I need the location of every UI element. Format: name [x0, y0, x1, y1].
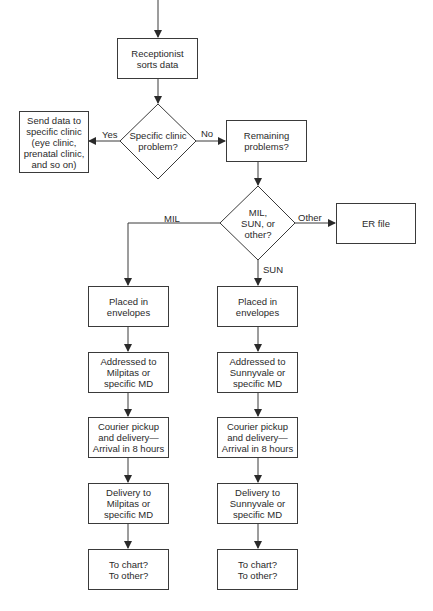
sun-final-box: To chart? To other? [217, 549, 298, 590]
mil-delivery-box: Delivery to Milpitas or specific MD [88, 483, 169, 524]
sun-delivery-box: Delivery to Sunnyvale or specific MD [217, 483, 298, 524]
mil-addressed-box: Addressed to Milpitas or specific MD [88, 352, 169, 393]
no-label: No [201, 128, 213, 139]
remaining-problems-box: Remaining problems? [226, 120, 307, 162]
decision1-text: Specific clinic problem? [120, 126, 196, 156]
er-file-box: ER file [336, 203, 416, 244]
mil-label: MIL [164, 213, 180, 224]
mil-final-box: To chart? To other? [88, 549, 169, 590]
receptionist-box: Receptionist sorts data [117, 38, 198, 79]
sun-courier-box: Courier pickup and delivery— Arrival in … [217, 417, 298, 458]
decision2-text: MIL, SUN, or other? [225, 205, 291, 241]
other-label: Other [298, 212, 322, 223]
yes-label: Yes [102, 129, 118, 140]
mil-placed-box: Placed in envelopes [88, 286, 169, 327]
sun-label: SUN [263, 264, 283, 275]
sun-addressed-box: Addressed to Sunnyvale or specific MD [217, 352, 298, 393]
send-clinic-box: Send data to specific clinic (eye clinic… [19, 111, 89, 173]
mil-courier-box: Courier pickup and delivery— Arrival in … [88, 417, 169, 458]
sun-placed-box: Placed in envelopes [217, 286, 298, 327]
mil-arrow [128, 223, 220, 285]
